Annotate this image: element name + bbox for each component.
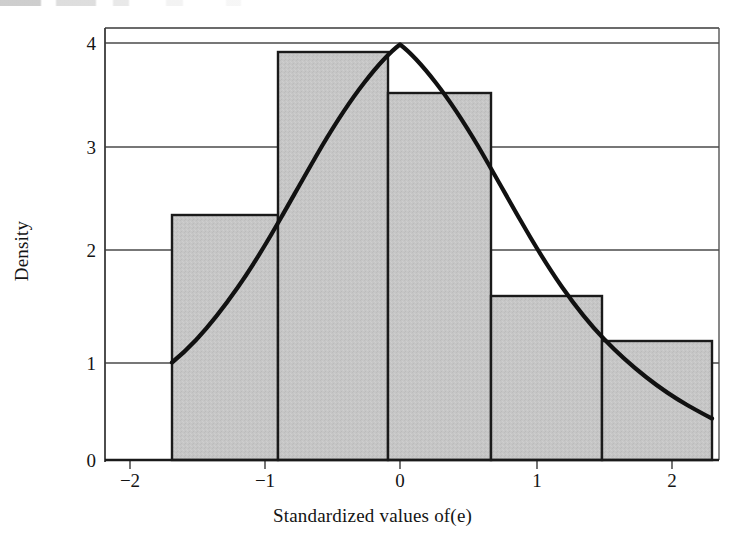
density-histogram-figure: 4 3 2 1 0 −2 −1 0 1 2 Standardized value… bbox=[0, 0, 745, 551]
ytick-label-1: 1 bbox=[70, 353, 96, 375]
histogram-bar bbox=[278, 52, 388, 460]
ytick-label-2: 2 bbox=[70, 240, 96, 262]
xtick-label-minus-1: −1 bbox=[245, 470, 285, 492]
x-axis-title: Standardized values of(e) bbox=[0, 505, 745, 527]
histogram-bars bbox=[172, 52, 712, 460]
xtick-label-0: 0 bbox=[380, 470, 420, 492]
ytick-label-0: 0 bbox=[70, 450, 96, 472]
y-axis-title: Density bbox=[11, 201, 33, 301]
xtick-label-1: 1 bbox=[517, 470, 557, 492]
plot-area bbox=[0, 0, 745, 551]
histogram-bar bbox=[388, 93, 491, 460]
ytick-label-4: 4 bbox=[70, 33, 96, 55]
xtick-label-minus-2: −2 bbox=[110, 470, 150, 492]
histogram-bar bbox=[602, 341, 712, 460]
xtick-label-2: 2 bbox=[652, 470, 692, 492]
ytick-label-3: 3 bbox=[70, 137, 96, 159]
